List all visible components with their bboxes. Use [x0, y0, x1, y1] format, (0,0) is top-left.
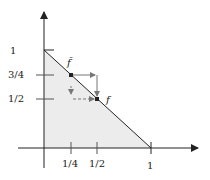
y-tick-1-2: 1/2 [8, 93, 24, 104]
simplex-diagram: 1 3/4 1/2 1/4 1/2 1 f̄ f [0, 0, 210, 180]
y-tick-1: 1 [10, 45, 16, 56]
x-tick-1-2: 1/2 [89, 158, 105, 169]
label-f: f [105, 94, 112, 105]
label-fbar: f̄ [66, 57, 73, 68]
y-tick-3-4: 3/4 [8, 69, 24, 80]
point-f [95, 97, 99, 101]
x-tick-1: 1 [147, 160, 153, 171]
point-fbar [69, 73, 73, 77]
x-tick-1-4: 1/4 [62, 158, 78, 169]
